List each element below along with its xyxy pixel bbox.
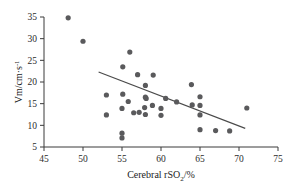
y-axis-ticks: 5101520253035 [28, 12, 45, 152]
y-axis-title-main: Vm/cm·s [13, 66, 24, 103]
data-point [197, 112, 202, 117]
data-point [120, 92, 125, 97]
x-tick-label: 50 [78, 154, 88, 164]
y-axis-title-superscript: -1 [13, 61, 20, 66]
data-point [213, 128, 218, 133]
data-point [143, 83, 148, 88]
svg-text:Cerebral rSO2/%: Cerebral rSO2/% [127, 169, 195, 183]
y-tick-label: 25 [28, 56, 38, 66]
data-point [244, 105, 249, 110]
data-point [158, 113, 163, 118]
data-point [142, 105, 147, 110]
data-point [104, 92, 109, 97]
plot-area: 5101520253035 45505560657075 Cerebral rS… [0, 0, 292, 185]
y-tick-label: 10 [28, 121, 38, 131]
data-point [197, 103, 202, 108]
scatter-chart-figure: 5101520253035 45505560657075 Cerebral rS… [0, 0, 292, 185]
data-point [174, 99, 179, 104]
data-point [120, 64, 125, 69]
x-tick-label: 55 [117, 154, 127, 164]
x-axis-ticks: 45505560657075 [39, 147, 283, 164]
x-tick-label: 45 [39, 154, 49, 164]
data-point [189, 82, 194, 87]
data-point [66, 15, 71, 20]
data-point [150, 103, 155, 108]
x-tick-label: 65 [195, 154, 205, 164]
svg-text:Vm/cm·s-1: Vm/cm·s-1 [13, 61, 25, 104]
data-point [197, 127, 202, 132]
y-axis-title: Vm/cm·s-1 [13, 61, 25, 104]
regression-trend-line [99, 72, 246, 128]
data-point [131, 110, 136, 115]
x-tick-label: 70 [234, 154, 244, 164]
data-point [151, 72, 156, 77]
data-point [127, 50, 132, 55]
data-point [190, 102, 195, 107]
data-point [119, 135, 124, 140]
y-tick-label: 30 [28, 34, 38, 44]
data-points-group [66, 15, 250, 140]
y-tick-label: 35 [28, 12, 38, 22]
x-axis-title-main: Cerebral rSO [127, 169, 180, 180]
data-point [126, 99, 131, 104]
data-point [135, 72, 140, 77]
data-point [119, 106, 124, 111]
data-point [104, 112, 109, 117]
y-tick-label: 15 [28, 99, 38, 109]
y-tick-label: 20 [28, 77, 38, 87]
data-point [227, 128, 232, 133]
data-point [158, 106, 163, 111]
x-tick-label: 60 [156, 154, 166, 164]
data-point [143, 95, 148, 100]
trend-line-group [99, 72, 246, 128]
data-point [163, 96, 168, 101]
data-point [80, 39, 85, 44]
y-tick-label: 5 [32, 142, 37, 152]
x-axis-title-tail: /% [184, 169, 195, 180]
data-point [197, 94, 202, 99]
x-tick-label: 75 [273, 154, 283, 164]
data-point [137, 110, 142, 115]
x-axis-title: Cerebral rSO2/% [127, 169, 195, 183]
data-point [143, 112, 148, 117]
data-point [119, 131, 124, 136]
